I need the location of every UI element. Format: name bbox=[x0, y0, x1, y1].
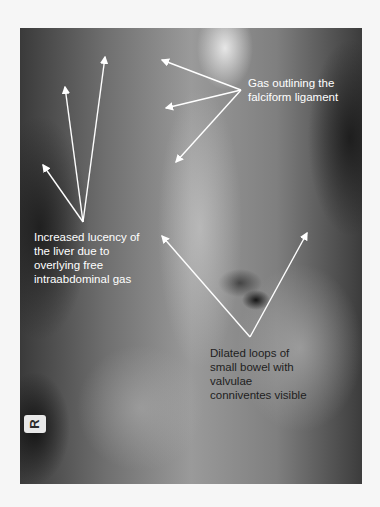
falciform-arrow-3 bbox=[176, 90, 241, 162]
falciform-label: Gas outlining the falciform ligament bbox=[248, 76, 338, 104]
liver-arrow-2 bbox=[65, 87, 83, 222]
bowel-arrow-1 bbox=[162, 236, 250, 337]
side-marker: R bbox=[24, 415, 46, 433]
liver-label: Increased lucency of the liver due to ov… bbox=[34, 230, 139, 286]
bowel-arrow-2 bbox=[250, 233, 307, 337]
falciform-arrow-2 bbox=[166, 90, 241, 108]
falciform-arrow-1 bbox=[162, 60, 241, 90]
bowel-label: Dilated loops of small bowel with valvul… bbox=[210, 346, 307, 402]
liver-arrow-3 bbox=[83, 57, 105, 222]
